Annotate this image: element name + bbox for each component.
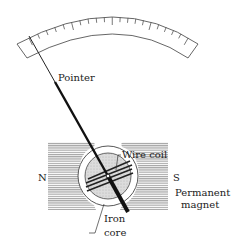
- meter-scale: [17, 17, 198, 58]
- scale-tick: [38, 34, 40, 39]
- scale-tick: [179, 34, 181, 38]
- scale-tick: [72, 22, 74, 30]
- scale-tick: [80, 20, 81, 25]
- scale-tick: [157, 25, 159, 30]
- scale-tick: [135, 19, 136, 24]
- label-wire-coil: Wire coil: [122, 149, 167, 160]
- label-permanent-magnet-1: Permanent: [175, 187, 230, 198]
- label-iron-core-1: Iron: [104, 213, 126, 224]
- scale-tick: [164, 27, 166, 32]
- scale-tick: [55, 27, 57, 32]
- scale-tick: [63, 25, 64, 30]
- scale-tick: [96, 18, 97, 23]
- scale-tick: [142, 20, 143, 25]
- label-iron-core-2: core: [104, 227, 126, 238]
- scale-tick: [127, 18, 128, 23]
- scale-tick: [184, 38, 188, 45]
- scale-tick: [172, 30, 174, 35]
- label-pointer: Pointer: [58, 72, 95, 83]
- label-permanent-magnet-2: magnet: [181, 199, 219, 210]
- label-south: S: [173, 172, 180, 183]
- label-north: N: [38, 172, 47, 183]
- scale-tick: [88, 19, 89, 24]
- scale-tick: [149, 22, 151, 30]
- galvanometer-diagram: Pointer Wire coil N S Permanent magnet I…: [0, 0, 235, 248]
- scale-tick: [46, 30, 48, 35]
